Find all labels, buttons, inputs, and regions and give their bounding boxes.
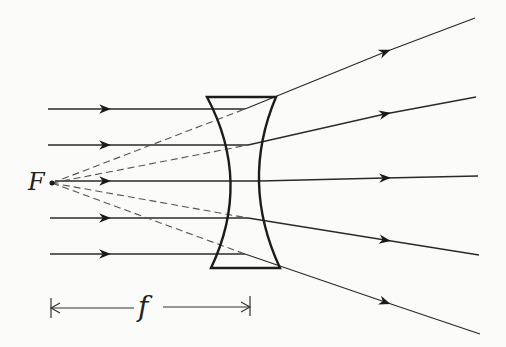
diagram-canvas [0,0,506,347]
focal-point-label: F [28,168,45,196]
lens-diagram: F f [0,0,506,347]
focal-length-label: f [138,290,148,323]
incoming-rays [48,109,260,254]
focal-point-dot [50,181,55,186]
concave-lens [207,97,280,268]
focal-length-dimension [51,296,250,318]
outgoing-rays [245,18,480,334]
